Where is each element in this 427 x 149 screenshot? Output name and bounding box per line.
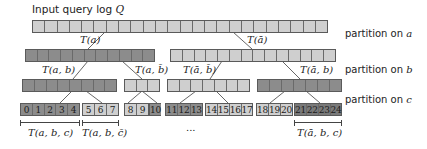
log-cell	[38, 50, 50, 61]
log-cell	[119, 21, 131, 32]
log-cell	[203, 80, 215, 91]
leaf-cell: 4	[68, 104, 79, 115]
log-cell	[108, 50, 120, 61]
log-cell	[289, 50, 301, 61]
log-cell	[70, 80, 82, 91]
log-cell	[137, 80, 149, 91]
log-cell	[230, 50, 242, 61]
log-cell	[316, 21, 327, 32]
partition-a-bbar-bar	[124, 79, 160, 92]
label-t-a-b: T(a, b)	[42, 64, 75, 75]
log-cell	[265, 50, 277, 61]
log-cell	[218, 50, 230, 61]
log-cell	[191, 80, 203, 91]
log-cell	[301, 50, 313, 61]
leaf-cell: 12	[178, 104, 190, 115]
log-cell	[168, 80, 180, 91]
log-cell	[156, 21, 168, 32]
leaf-cell: 23	[319, 104, 331, 115]
label-t-abar-bbar: T(ā, b̄)	[183, 64, 216, 75]
log-cell	[242, 50, 254, 61]
leaf-cell: 0	[21, 104, 33, 115]
leaf-group-10: 10	[149, 103, 161, 116]
log-cell	[105, 80, 116, 91]
log-cell	[227, 80, 239, 91]
leaf-cell: 3	[56, 104, 68, 115]
log-cell	[180, 80, 192, 91]
log-cell	[23, 80, 35, 91]
log-cell	[49, 50, 61, 61]
leaf-cell: 2	[45, 104, 57, 115]
log-cell	[324, 50, 335, 61]
log-cell	[171, 50, 183, 61]
leaf-cell: 11	[166, 104, 178, 115]
log-cell	[45, 21, 57, 32]
log-cell	[131, 21, 143, 32]
log-cell	[82, 21, 94, 32]
log-cell	[148, 80, 159, 91]
ellipsis: ...	[186, 122, 196, 133]
label-t-abar-b-c: T(ā, b, c)	[297, 127, 342, 138]
log-cell	[33, 21, 45, 32]
partition-abar-bbar-bar	[167, 79, 250, 92]
leaf-cell: 20	[281, 104, 292, 115]
leaf-cell: 24	[331, 104, 342, 115]
label-t-a-b-cbar: T(a, b, c̄)	[82, 127, 127, 138]
partition-a-b-bar	[22, 79, 117, 92]
log-cell	[144, 21, 156, 32]
leaf-cell: 1	[33, 104, 45, 115]
leaf-group-0-4: 01234	[20, 103, 80, 116]
log-cell	[94, 21, 106, 32]
log-cell	[217, 21, 229, 32]
log-cell	[85, 50, 97, 61]
log-cell	[195, 50, 207, 61]
log-cell	[181, 21, 193, 32]
log-cell	[215, 80, 227, 91]
leaf-group-18-20: 181920	[256, 103, 293, 116]
leaf-cell: 18	[257, 104, 269, 115]
log-cell	[230, 21, 242, 32]
log-cell	[125, 80, 137, 91]
log-cell	[94, 80, 106, 91]
log-cell	[318, 80, 330, 91]
log-cell	[267, 21, 279, 32]
log-cell	[183, 50, 195, 61]
log-cell	[253, 50, 265, 61]
partition-abar-b-bar	[257, 79, 342, 92]
log-cell	[279, 21, 291, 32]
log-cell	[270, 80, 282, 91]
log-cell	[58, 80, 70, 91]
log-cell	[96, 50, 108, 61]
log-cell	[70, 21, 82, 32]
partition-a-bar	[25, 49, 155, 62]
log-cell	[306, 80, 318, 91]
log-cell	[193, 21, 205, 32]
leaf-cell: 16	[230, 104, 242, 115]
leaf-cell: 7	[107, 104, 118, 115]
log-cell	[61, 50, 73, 61]
log-cell	[107, 21, 119, 32]
leaf-cell: 5	[83, 104, 95, 115]
leaf-group-8-9: 89	[124, 103, 149, 116]
log-cell	[35, 80, 47, 91]
log-cell	[73, 50, 85, 61]
leaf-cell: 21	[295, 104, 307, 115]
log-cell	[205, 21, 217, 32]
label-t-abar-b: T(ā, b)	[300, 64, 333, 75]
log-cell	[132, 50, 144, 61]
leaf-group-11-13: 111213	[165, 103, 203, 116]
leaf-cell: 10	[150, 104, 161, 115]
log-cell	[47, 80, 59, 91]
log-cell	[277, 50, 289, 61]
log-cell	[168, 21, 180, 32]
log-cell	[330, 80, 341, 91]
leaf-cell: 14	[206, 104, 218, 115]
log-cell	[143, 50, 154, 61]
side-label-partition-c: partition on c	[345, 94, 412, 105]
leaf-cell: 22	[307, 104, 319, 115]
log-cell	[291, 21, 303, 32]
label-t-a: T(a)	[80, 34, 100, 45]
log-cell	[282, 80, 294, 91]
log-cell	[254, 21, 266, 32]
query-log-bar	[32, 20, 328, 33]
